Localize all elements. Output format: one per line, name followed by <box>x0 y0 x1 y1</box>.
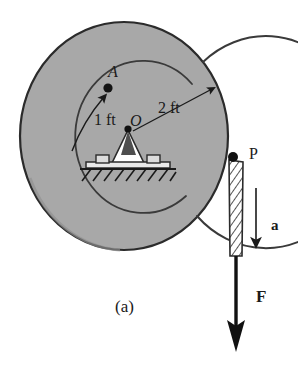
base-bolt-right <box>147 155 160 163</box>
figure-container: A 1 ft O 2 ft P a F (a) <box>0 0 298 366</box>
point-p-marker <box>228 152 238 162</box>
base-bolt-left <box>96 155 109 163</box>
label-acceleration: a <box>271 218 279 233</box>
figure-caption: (a) <box>115 298 134 315</box>
label-point-p: P <box>249 146 258 162</box>
label-point-a: A <box>108 64 118 80</box>
cord-hatched-strip <box>229 160 243 256</box>
label-force: F <box>256 288 266 305</box>
force-arrow <box>227 256 245 352</box>
label-point-o: O <box>130 113 142 129</box>
cord-group <box>229 160 243 256</box>
diagram-svg <box>0 0 298 366</box>
label-radius-outer: 2 ft <box>158 100 180 116</box>
label-radius-inner: 1 ft <box>94 112 116 128</box>
point-a-marker <box>103 83 112 92</box>
